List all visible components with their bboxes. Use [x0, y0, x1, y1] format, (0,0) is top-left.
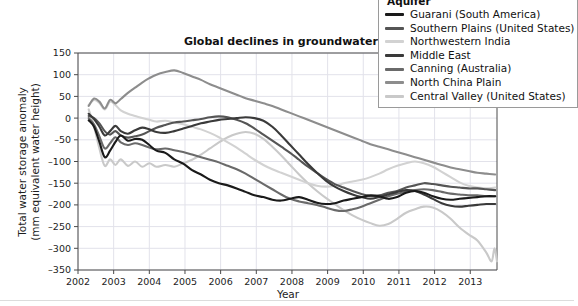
- x-tick-label: 2003: [102, 276, 126, 287]
- legend-color-swatch: [385, 81, 404, 84]
- legend-title: Aquifer: [387, 0, 572, 7]
- x-tick-label: 2011: [387, 276, 411, 287]
- legend-item[interactable]: Central Valley (United States): [385, 90, 572, 104]
- legend-item[interactable]: Northwestern India: [385, 35, 572, 49]
- y-axis-title-line1: Total water storage anomaly: [16, 87, 28, 238]
- legend-color-swatch: [385, 54, 404, 57]
- legend-item-label: Canning (Australia): [410, 62, 511, 76]
- legend-item-label: Northwestern India: [410, 35, 510, 49]
- legend-item[interactable]: Southern Plains (United States): [385, 22, 572, 36]
- x-tick-label: 2006: [209, 276, 233, 287]
- legend-item-label: Middle East: [410, 49, 471, 63]
- legend-item-label: Guarani (South America): [410, 8, 540, 22]
- y-axis-title-line2: (mm equivalent water height): [29, 83, 41, 241]
- x-tick-label: 2004: [137, 276, 161, 287]
- legend-item[interactable]: Guarani (South America): [385, 8, 572, 22]
- legend-item-label: North China Plain: [410, 76, 501, 90]
- legend-color-swatch: [385, 13, 404, 16]
- legend-item[interactable]: Middle East: [385, 49, 572, 63]
- legend-color-swatch: [385, 40, 404, 43]
- y-tick-label: 150: [53, 47, 71, 58]
- x-tick-label: 2007: [244, 276, 268, 287]
- y-tick-label: –50: [54, 134, 71, 145]
- y-tick-label: –150: [48, 178, 71, 189]
- y-tick-label: 100: [53, 69, 71, 80]
- legend: Aquifer Guarani (South America)Southern …: [378, 0, 578, 108]
- x-tick-label: 2010: [351, 276, 375, 287]
- legend-color-swatch: [385, 95, 404, 98]
- x-tick-label: 2005: [173, 276, 197, 287]
- legend-items: Guarani (South America)Southern Plains (…: [385, 8, 572, 103]
- x-tick-label: 2013: [458, 276, 482, 287]
- legend-item-label: Central Valley (United States): [410, 90, 566, 104]
- y-tick-label: –200: [48, 199, 71, 210]
- bottom-divider: [0, 300, 574, 301]
- x-tick-label: 2002: [66, 276, 90, 287]
- x-tick-label: 2009: [316, 276, 340, 287]
- x-tick-label: 2012: [423, 276, 447, 287]
- legend-item-label: Southern Plains (United States): [410, 22, 574, 36]
- x-tick-label: 2008: [280, 276, 304, 287]
- y-tick-label: –300: [48, 243, 71, 254]
- y-tick-label: –250: [48, 221, 71, 232]
- legend-color-swatch: [385, 68, 404, 71]
- chart-title: Global declines in groundwater: [184, 35, 378, 48]
- y-tick-label: –100: [48, 156, 71, 167]
- legend-item[interactable]: Canning (Australia): [385, 62, 572, 76]
- y-tick-label: 0: [65, 113, 71, 124]
- y-tick-label: –350: [48, 264, 71, 275]
- y-tick-label: 50: [59, 91, 71, 102]
- legend-item[interactable]: North China Plain: [385, 76, 572, 90]
- legend-color-swatch: [385, 27, 404, 30]
- x-axis-title: Year: [276, 288, 300, 300]
